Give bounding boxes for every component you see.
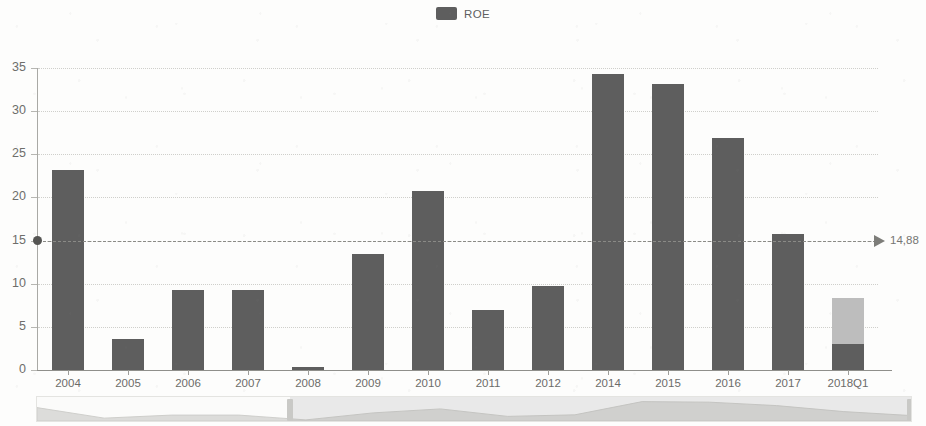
reference-line-value-label: 14,88 (890, 234, 919, 246)
y-axis-tick-label: 15 (2, 233, 26, 247)
x-axis-tick-label: 2004 (55, 377, 81, 389)
reference-dot-icon (33, 236, 42, 245)
bar-segment-primary (412, 191, 443, 370)
bar-column[interactable] (352, 68, 383, 370)
x-axis-tick-mark (488, 370, 489, 375)
bar-stack (592, 74, 623, 370)
roe-bar-chart: ROE 05101520253035 14,88 200420052006200… (0, 0, 926, 426)
legend-swatch-icon (436, 7, 457, 20)
x-axis-tick-label: 2014 (595, 377, 621, 389)
y-axis-tick-label: 10 (2, 276, 26, 290)
x-axis-tick-mark (788, 370, 789, 375)
bar-segment-primary (712, 138, 743, 370)
y-axis-tick-label: 0 (2, 362, 26, 376)
y-axis-tick-mark (31, 327, 37, 328)
x-axis-tick-label: 2005 (115, 377, 141, 389)
datazoom-handle-right[interactable] (907, 399, 912, 421)
x-axis-tick-mark (248, 370, 249, 375)
x-axis-tick-mark (728, 370, 729, 375)
bar-stack (232, 290, 263, 370)
bar-segment-primary (352, 254, 383, 370)
datazoom-handle-left[interactable] (287, 399, 293, 421)
bar-column[interactable] (172, 68, 203, 370)
legend-item-roe[interactable]: ROE (436, 7, 490, 20)
x-axis-tick-label: 2006 (175, 377, 201, 389)
x-axis-tick-mark (308, 370, 309, 375)
x-axis-tick-label: 2017 (775, 377, 801, 389)
y-axis-tick-label: 35 (2, 60, 26, 74)
x-axis-tick-label: 2007 (235, 377, 261, 389)
y-axis-tick-label: 20 (2, 189, 26, 203)
x-axis-tick-label: 2009 (355, 377, 381, 389)
x-axis-tick-label: 2015 (655, 377, 681, 389)
bar-stack (772, 234, 803, 370)
datazoom-selected-window[interactable] (290, 397, 911, 421)
reference-line (38, 241, 876, 242)
x-axis-tick-label: 2011 (476, 377, 501, 389)
arrow-right-icon (874, 235, 885, 247)
bar-column[interactable] (112, 68, 143, 370)
bar-column[interactable] (52, 68, 83, 370)
bar-segment-primary (652, 84, 683, 370)
y-axis-tick-mark (31, 154, 37, 155)
x-axis-tick-mark (548, 370, 549, 375)
bar-stack (172, 290, 203, 370)
y-axis-tick-label: 25 (2, 146, 26, 160)
x-axis-tick-label: 2010 (415, 377, 441, 389)
bar-column[interactable] (592, 68, 623, 370)
x-axis-tick-mark (428, 370, 429, 375)
bar-column[interactable] (412, 68, 443, 370)
bar-segment-primary (832, 344, 863, 370)
bar-stack (652, 84, 683, 370)
x-axis-tick-mark (368, 370, 369, 375)
bar-column[interactable] (232, 68, 263, 370)
bar-stack (472, 310, 503, 370)
bar-segment-primary (592, 74, 623, 370)
x-axis-tick-mark (68, 370, 69, 375)
x-axis-tick-mark (188, 370, 189, 375)
bar-stack (52, 170, 83, 370)
bar-series-group (38, 68, 878, 370)
y-axis-tick-mark (31, 284, 37, 285)
x-axis-tick-mark (668, 370, 669, 375)
bar-stack (412, 191, 443, 370)
datazoom-slider[interactable] (36, 396, 912, 422)
bar-column[interactable] (832, 68, 863, 370)
bar-column[interactable] (652, 68, 683, 370)
bar-segment-primary (772, 234, 803, 370)
x-axis-line (37, 370, 892, 371)
y-axis-tick-mark (31, 111, 37, 112)
bar-segment-primary (232, 290, 263, 370)
x-axis-tick-mark (608, 370, 609, 375)
bar-stack (832, 298, 863, 370)
bar-column[interactable] (772, 68, 803, 370)
chart-legend: ROE (0, 7, 926, 20)
bar-segment-primary (472, 310, 503, 370)
x-axis-tick-label: 2012 (535, 377, 561, 389)
y-axis-tick-label: 30 (2, 103, 26, 117)
bar-column[interactable] (712, 68, 743, 370)
x-axis-tick-label: 2018Q1 (828, 377, 869, 389)
bar-stack (532, 286, 563, 370)
y-axis-tick-mark (31, 197, 37, 198)
x-axis-tick-label: 2008 (295, 377, 321, 389)
y-axis-tick-label: 5 (2, 319, 26, 333)
bar-stack (112, 339, 143, 370)
x-axis-tick-label: 2016 (715, 377, 741, 389)
bar-stack (712, 138, 743, 370)
y-axis-tick-mark (31, 68, 37, 69)
bar-segment-primary (532, 286, 563, 370)
bar-segment-primary (172, 290, 203, 370)
bar-segment-primary (112, 339, 143, 370)
bar-segment-primary (52, 170, 83, 370)
bar-stack (352, 254, 383, 370)
bar-segment-secondary (832, 298, 863, 345)
x-axis-tick-mark (848, 370, 849, 375)
legend-label-roe: ROE (464, 8, 490, 20)
x-axis-tick-mark (128, 370, 129, 375)
bar-column[interactable] (292, 68, 323, 370)
bar-column[interactable] (472, 68, 503, 370)
bar-column[interactable] (532, 68, 563, 370)
